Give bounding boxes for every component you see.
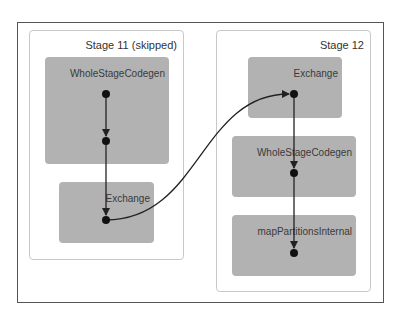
operator-label: mapPartitionsInternal xyxy=(258,226,353,237)
stage-12-label: Stage 12 xyxy=(320,39,364,51)
stage-12-exchange-box[interactable]: Exchange xyxy=(248,57,342,118)
stage-12-mappartitionsinternal-box[interactable]: mapPartitionsInternal xyxy=(232,215,356,276)
operator-label: WholeStageCodegen xyxy=(70,68,165,79)
operator-label: WholeStageCodegen xyxy=(257,147,352,158)
operator-label: Exchange xyxy=(106,193,150,204)
stage-11-label: Stage 11 (skipped) xyxy=(85,39,177,51)
stage-11-wholestagecodegen-box[interactable]: WholeStageCodegen xyxy=(45,57,169,164)
stage-11-exchange-box[interactable]: Exchange xyxy=(59,182,154,243)
dag-visualization: Stage 11 (skipped) WholeStageCodegen Exc… xyxy=(0,0,402,323)
operator-label: Exchange xyxy=(294,68,338,79)
stage-12-wholestagecodegen-box[interactable]: WholeStageCodegen xyxy=(232,136,356,197)
